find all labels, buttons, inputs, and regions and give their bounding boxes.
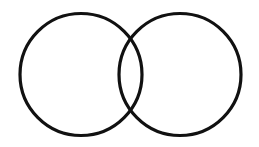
left-circle (20, 14, 142, 136)
figure-canvas (0, 0, 259, 147)
right-circle (119, 14, 241, 136)
venn-diagram (0, 0, 259, 147)
